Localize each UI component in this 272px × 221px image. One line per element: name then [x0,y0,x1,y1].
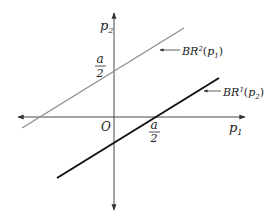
svg-text:a: a [150,118,157,132]
br1-label: BR1(p2) [222,86,264,101]
origin-label: O [101,120,111,134]
y-intercept-label: a 2 [95,52,106,80]
br1-line [57,78,219,178]
y-axis-label: p2 [100,18,113,35]
svg-text:a: a [96,52,103,66]
x-axis-label: p1 [229,120,242,137]
svg-text:2: 2 [96,67,104,80]
svg-text:2: 2 [150,132,158,145]
x-intercept-label: a 2 [149,118,160,145]
best-response-diagram: p2 p1 O a 2 a 2 BR2(p1) BR1(p2) [0,0,272,221]
br2-label: BR2(p1) [181,45,223,60]
